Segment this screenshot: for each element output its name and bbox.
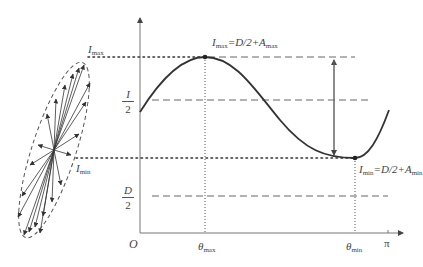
i-half-label: I 2 [122,89,134,115]
polarization-ellipse [5,56,104,245]
d-half-label: D 2 [122,185,134,211]
imin-axis-label: Imin [76,163,91,176]
min-point [353,156,358,161]
max-point [203,55,208,60]
theta-max-label: θmax [198,241,215,254]
imax-equation: Imax=D/2+Amax [212,37,278,50]
imin-equation: Imin=D/2+Amin [359,164,423,177]
theta-min-label: θmin [346,241,362,254]
origin-label: O [129,238,138,250]
axes [140,18,403,233]
imax-axis-label: Imax [88,44,104,57]
intensity-curve [140,57,389,158]
pi-label: π [384,238,390,249]
